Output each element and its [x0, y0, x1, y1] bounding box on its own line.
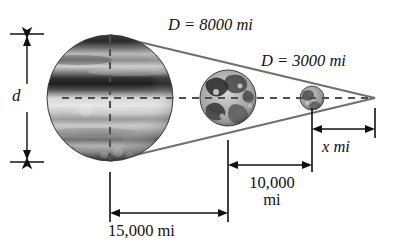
label-x-mi: x mi: [322, 138, 350, 155]
dimension-x: [312, 125, 375, 133]
dimension-15000: [110, 209, 228, 217]
label-diameter-d: d: [12, 87, 21, 105]
label-10000-mi: 10,000 mi: [236, 174, 308, 209]
dimension-10000: [228, 161, 312, 169]
label-10000-line2: mi: [236, 191, 308, 208]
similar-triangles-planet-diagram: d D = 8000 mi D = 3000 mi 15,000 mi 10,0…: [0, 0, 406, 248]
label-15000-mi: 15,000 mi: [108, 222, 175, 239]
label-10000-line1: 10,000: [236, 174, 308, 191]
label-distance-8000: D = 8000 mi: [168, 16, 253, 33]
diagram-canvas: [0, 0, 406, 248]
label-distance-3000: D = 3000 mi: [261, 52, 346, 69]
